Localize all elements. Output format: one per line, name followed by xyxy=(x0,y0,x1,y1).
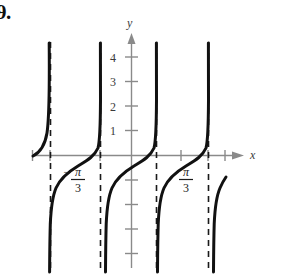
asymptote-lines xyxy=(51,42,209,272)
curve-branch-4 xyxy=(158,43,209,272)
graph-plot: x y 1 2 3 4 xyxy=(0,0,283,278)
x-axis-arrowhead xyxy=(232,152,244,160)
x-tick-label-neg-pi-over-3: − π 3 xyxy=(64,165,85,195)
figure-container: 9. x y 1 2 3 4 xyxy=(0,0,283,278)
y-tick-label-4: 4 xyxy=(110,51,116,65)
curve-branch-1 xyxy=(33,43,49,156)
neg-pi-over-3-numerator: π xyxy=(75,165,82,179)
x-axis-label: x xyxy=(249,148,256,162)
function-curve-branches xyxy=(33,43,226,272)
y-axis-arrowhead xyxy=(128,33,136,44)
pi-over-3-denominator: 3 xyxy=(183,181,189,195)
neg-pi-over-3-denominator: 3 xyxy=(75,181,81,195)
y-axis: y xyxy=(126,16,136,268)
neg-pi-over-3-sign: − xyxy=(64,165,71,179)
curve-branch-5 xyxy=(214,177,227,272)
y-axis-tick-labels: 1 2 3 4 xyxy=(110,51,116,139)
y-tick-label-3: 3 xyxy=(110,75,116,89)
curve-branch-2 xyxy=(50,43,101,272)
y-tick-label-1: 1 xyxy=(110,124,116,138)
y-tick-label-2: 2 xyxy=(110,100,116,114)
y-axis-label: y xyxy=(126,16,133,30)
pi-over-3-numerator: π xyxy=(183,165,190,179)
